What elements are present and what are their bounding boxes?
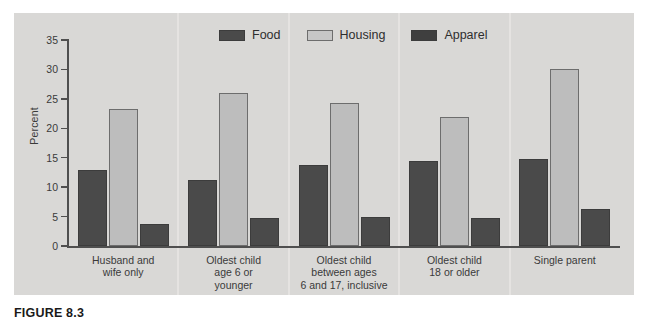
- bar-food-group-4: [409, 161, 438, 246]
- category-label-5: Single parent: [502, 254, 628, 266]
- y-tick-25: [61, 98, 68, 99]
- x-axis-line: [67, 246, 620, 248]
- y-tick-label-5: 5: [18, 211, 58, 222]
- bar-food-group-1: [78, 170, 107, 247]
- bar-housing-group-3: [330, 103, 359, 246]
- y-tick-30: [61, 69, 68, 70]
- y-tick-label-35: 35: [18, 35, 58, 46]
- y-tick-label-30: 30: [18, 64, 58, 75]
- bar-housing-group-1: [109, 109, 138, 246]
- y-tick-20: [61, 128, 68, 129]
- category-label-1: Husband andwife only: [60, 254, 186, 279]
- category-label-3: Oldest childbetween ages6 and 17, inclus…: [281, 254, 407, 291]
- bar-housing-group-4: [440, 117, 469, 246]
- y-tick-label-10: 10: [18, 182, 58, 193]
- y-tick-10: [61, 186, 68, 187]
- category-label-2: Oldest childage 6 oryounger: [170, 254, 296, 291]
- category-label-4: Oldest child18 or older: [391, 254, 517, 279]
- bar-housing-group-5: [550, 69, 579, 246]
- x-axis-category-labels: Husband andwife onlyOldest childage 6 or…: [68, 254, 620, 295]
- bar-apparel-group-5: [581, 209, 610, 246]
- bar-apparel-group-1: [140, 224, 169, 246]
- y-tick-0: [61, 245, 68, 246]
- bar-housing-group-2: [219, 93, 248, 246]
- bar-food-group-3: [299, 165, 328, 246]
- chart-panel: FoodHousingApparel 05101520253035 Percen…: [14, 13, 634, 295]
- plot-area: [68, 40, 620, 246]
- bar-apparel-group-2: [250, 218, 279, 246]
- y-tick-5: [61, 216, 68, 217]
- y-tick-label-0: 0: [18, 241, 58, 252]
- bar-apparel-group-4: [471, 218, 500, 246]
- bar-food-group-5: [519, 159, 548, 246]
- figure-container: FoodHousingApparel 05101520253035 Percen…: [0, 0, 648, 328]
- bar-food-group-2: [188, 180, 217, 247]
- y-tick-15: [61, 157, 68, 158]
- y-tick-35: [61, 39, 68, 40]
- y-axis-title: Percent: [28, 86, 40, 166]
- figure-caption: FIGURE 8.3: [14, 306, 84, 320]
- bar-apparel-group-3: [361, 217, 390, 246]
